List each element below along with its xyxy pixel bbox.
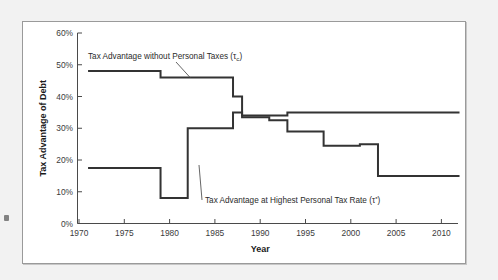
page-margin-artifact [4,215,9,221]
chart-panel [22,21,466,264]
figure-root: 60% 50% 40% 30% 20% 10% 0% 1970 1975 198… [0,0,498,280]
